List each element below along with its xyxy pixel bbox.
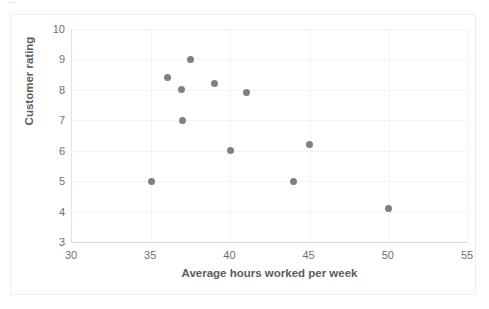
x-axis-tick-labels: 303540455055 xyxy=(71,249,468,265)
gridline-horizontal xyxy=(72,59,468,60)
data-point xyxy=(179,117,186,124)
clipped-header-text: ... xyxy=(8,0,228,6)
data-point xyxy=(290,178,297,185)
screenshot-root: ... 345678910 303540455055 Average hours… xyxy=(0,0,489,309)
gridline-horizontal xyxy=(72,120,468,121)
gridline-horizontal xyxy=(72,90,468,91)
data-point xyxy=(306,141,313,148)
scatter-plot-area xyxy=(71,29,468,243)
x-axis-title: Average hours worked per week xyxy=(71,267,468,279)
data-point xyxy=(187,56,194,63)
x-axis-tick-label: 45 xyxy=(289,249,329,261)
y-axis-title: Customer rating xyxy=(23,21,35,141)
x-axis-tick-label: 50 xyxy=(368,249,408,261)
data-point xyxy=(164,74,171,81)
gridline-vertical xyxy=(151,29,152,242)
y-axis-tick-label: 5 xyxy=(25,175,65,187)
y-axis-tick-label: 3 xyxy=(25,236,65,248)
gridline-vertical xyxy=(468,29,469,242)
gridline-horizontal xyxy=(72,181,468,182)
x-axis-tick-label: 40 xyxy=(209,249,249,261)
gridline-vertical xyxy=(310,29,311,242)
data-point xyxy=(243,89,250,96)
chart-inner: 345678910 303540455055 Average hours wor… xyxy=(11,15,475,294)
x-axis-tick-label: 35 xyxy=(130,249,170,261)
y-axis-tick-label: 4 xyxy=(25,206,65,218)
data-point xyxy=(178,86,185,93)
x-axis-tick-label: 55 xyxy=(447,249,487,261)
y-axis-tick-label: 6 xyxy=(25,145,65,157)
gridline-vertical xyxy=(230,29,231,242)
x-axis-tick-label: 30 xyxy=(51,249,91,261)
chart-frame: 345678910 303540455055 Average hours wor… xyxy=(10,14,476,295)
data-point xyxy=(227,147,234,154)
gridline-horizontal xyxy=(72,29,468,30)
gridline-horizontal xyxy=(72,151,468,152)
data-point xyxy=(211,80,218,87)
data-point xyxy=(148,178,155,185)
gridline-horizontal xyxy=(72,212,468,213)
